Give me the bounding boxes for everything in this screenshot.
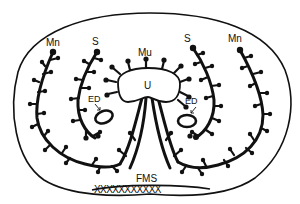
label-mn-left: Mn: [46, 37, 60, 48]
label-mu: Mu: [138, 47, 152, 58]
central-stems: [117, 98, 183, 168]
label-s-right: S: [184, 33, 191, 44]
label-fms: FMS: [136, 173, 157, 184]
right-ed-arrow-icon: [191, 107, 196, 113]
left-ed-arrow-icon: [95, 104, 100, 110]
label-s-left: S: [92, 36, 99, 47]
x-marks-row: XXXXXXXXXXX: [94, 184, 162, 195]
label-ed-left: ED: [88, 94, 101, 104]
right-ejaculatory-duct: [178, 115, 196, 127]
label-u: U: [144, 80, 151, 91]
label-ed-right: ED: [185, 96, 198, 106]
label-mn-right: Mn: [228, 33, 242, 44]
left-ejaculatory-duct: [93, 108, 114, 126]
diagram-canvas: Mn S Mu U S Mn ED ED FMS XXXXXXXXXXX: [0, 0, 300, 204]
